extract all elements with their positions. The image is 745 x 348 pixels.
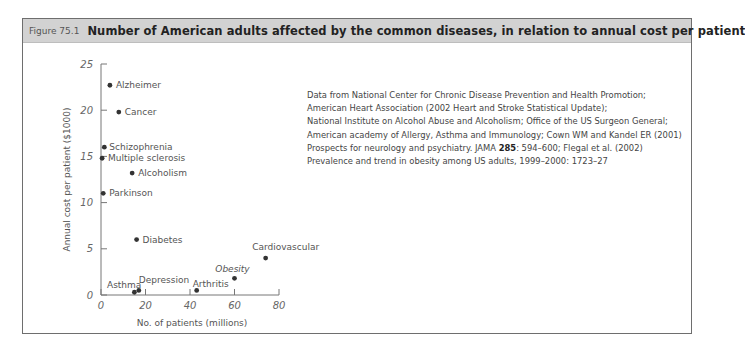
y-tick-label: 0 bbox=[87, 290, 93, 301]
source-line: Data from National Center for Chronic Di… bbox=[307, 89, 682, 102]
chart-axes: 0510152025020406080No. of patients (mill… bbox=[62, 59, 285, 329]
y-tick-label: 20 bbox=[80, 105, 93, 116]
source-citation: Data from National Center for Chronic Di… bbox=[307, 89, 682, 168]
y-tick-label: 15 bbox=[80, 151, 93, 162]
point-marker bbox=[100, 156, 105, 161]
point-label: Obesity bbox=[215, 264, 250, 274]
x-axis-label: No. of patients (millions) bbox=[137, 318, 248, 328]
point-marker bbox=[232, 276, 237, 281]
point-label: Asthma bbox=[107, 280, 141, 290]
point-marker bbox=[116, 110, 121, 115]
y-axis-label: Annual cost per patient ($1000) bbox=[62, 107, 72, 251]
point-label: Alzheimer bbox=[116, 80, 161, 90]
point-marker bbox=[263, 256, 268, 261]
x-tick-label: 40 bbox=[184, 300, 197, 311]
source-line: American Heart Association (2002 Heart a… bbox=[307, 102, 682, 115]
point-label: Diabetes bbox=[143, 235, 183, 245]
source-line: Prevalence and trend in obesity among US… bbox=[307, 155, 682, 168]
x-tick-label: 80 bbox=[273, 300, 286, 311]
source-line: Prospects for neurology and psychiatry. … bbox=[307, 142, 682, 155]
data-point-parkinson: Parkinson bbox=[101, 188, 153, 198]
point-label: Arthritis bbox=[193, 279, 229, 289]
point-marker bbox=[102, 145, 107, 150]
data-point-obesity: Obesity bbox=[215, 264, 250, 280]
point-marker bbox=[130, 171, 135, 176]
point-marker bbox=[108, 83, 113, 88]
point-marker bbox=[134, 237, 139, 242]
chart-points: AlzheimerCancerSchizophreniaMultiple scl… bbox=[100, 80, 320, 294]
data-point-cancer: Cancer bbox=[116, 107, 156, 117]
point-label: Alcoholism bbox=[138, 168, 187, 178]
point-label: Parkinson bbox=[109, 188, 153, 198]
point-label: Multiple sclerosis bbox=[108, 153, 185, 163]
data-point-asthma: Asthma bbox=[107, 280, 141, 294]
data-point-alcoholism: Alcoholism bbox=[130, 168, 187, 178]
data-point-diabetes: Diabetes bbox=[134, 235, 183, 245]
point-label: Depression bbox=[139, 275, 189, 285]
x-tick-label: 20 bbox=[139, 300, 152, 311]
point-label: Cardiovascular bbox=[252, 242, 319, 252]
data-point-cardiovascular: Cardiovascular bbox=[252, 242, 319, 260]
y-tick-label: 25 bbox=[80, 59, 93, 70]
data-point-alzheimer: Alzheimer bbox=[108, 80, 162, 90]
x-tick-label: 0 bbox=[98, 300, 104, 311]
y-tick-label: 5 bbox=[87, 243, 93, 254]
data-point-multiple-sclerosis: Multiple sclerosis bbox=[100, 153, 186, 163]
point-label: Cancer bbox=[125, 107, 157, 117]
source-line: National Institute on Alcohol Abuse and … bbox=[307, 115, 682, 128]
point-marker bbox=[101, 191, 106, 196]
data-point-depression: Depression bbox=[136, 275, 189, 292]
data-point-schizophrenia: Schizophrenia bbox=[102, 142, 173, 152]
point-marker bbox=[132, 290, 137, 295]
point-label: Schizophrenia bbox=[109, 142, 172, 152]
y-tick-label: 10 bbox=[80, 197, 93, 208]
x-tick-label: 60 bbox=[228, 300, 241, 311]
source-line: American academy of Allergy, Asthma and … bbox=[307, 129, 682, 142]
data-point-arthritis: Arthritis bbox=[193, 279, 229, 292]
